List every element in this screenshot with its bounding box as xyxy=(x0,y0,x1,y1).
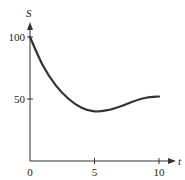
x-tick-label: 5 xyxy=(92,166,98,178)
line-chart: 50100 0510 S t xyxy=(0,0,185,180)
x-axis-arrow-icon xyxy=(168,158,176,164)
y-axis-label: S xyxy=(26,7,32,19)
y-tick-label: 50 xyxy=(14,93,26,105)
y-tick-label: 100 xyxy=(9,31,26,43)
x-axis-label: t xyxy=(178,155,182,167)
x-tick-label: 0 xyxy=(27,166,33,178)
y-ticks: 50100 xyxy=(9,31,34,105)
y-axis-arrow-icon xyxy=(27,22,33,30)
data-curve xyxy=(30,37,159,112)
x-tick-label: 10 xyxy=(154,166,166,178)
